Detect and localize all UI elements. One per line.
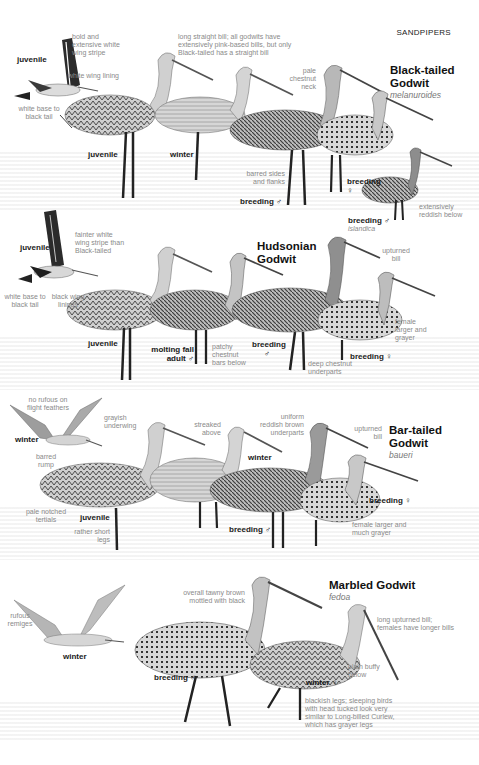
subspecies-name: melanuroides (390, 90, 455, 101)
note-tawny-brown: overall tawny brown mottled with black (175, 589, 245, 605)
note-blackish-legs: blackish legs; sleeping birds with head … (305, 697, 400, 729)
label-flight-winter: winter (63, 652, 87, 661)
label-molting-line2: adult ♂ (167, 354, 194, 363)
note-uniform-reddish: uniform reddish brown underparts (256, 413, 304, 437)
species-name-line2: Godwit (389, 437, 428, 449)
note-pale-tertials: pale notched tertials (24, 508, 68, 524)
note-female-much-grayer: female larger and much grayer (352, 521, 410, 537)
note-grayish-underwing: grayish underwing (104, 414, 140, 430)
label-molting-line1: molting fall (151, 345, 194, 354)
note-long-upturned-bill: long upturned bill; females have longer … (377, 616, 457, 632)
note-straight-bill: long straight bill; all godwits have ext… (178, 33, 300, 57)
note-short-legs: rather short legs (68, 528, 110, 544)
species-title-marbled: Marbled Godwit fedoa (329, 579, 415, 603)
note-tail-base: white base to black tail (0, 293, 50, 309)
label-breeding-male-line2: ♂ (264, 349, 270, 358)
species-title-hudsonian: Hudsonian Godwit (257, 240, 316, 266)
note-wing-lining: white wing lining (68, 72, 138, 80)
note-female-grayer: female larger and grayer (395, 318, 431, 342)
species-name-line1: Hudsonian (257, 240, 316, 252)
note-plain-buffy: plain buffy below (348, 663, 382, 679)
section-header: SANDPIPERS (396, 28, 451, 37)
note-no-rufous: no rufous on flight feathers (24, 396, 72, 412)
label-breeding-male-islandica: breeding ♂ (348, 216, 390, 225)
note-deep-chestnut: deep chestnut underparts (308, 360, 352, 376)
species-name-line1: Bar-tailed (389, 424, 442, 436)
species-name-line2: Godwit (390, 77, 429, 89)
label-juvenile: juvenile (88, 150, 118, 159)
label-flight-juvenile: juvenile (17, 55, 47, 64)
species-title-black-tailed: Black-tailed Godwit melanuroides (390, 64, 455, 101)
label-winter-female: winter ♀ (306, 678, 338, 687)
note-extensively-reddish: extensively reddish below (419, 203, 463, 219)
note-neck: pale chestnut neck (282, 67, 316, 91)
label-molting-adult: molting fall adult ♂ (144, 345, 194, 363)
label-breeding-female: breeding ♀ (369, 496, 411, 505)
label-flight-juvenile: juvenile (20, 243, 50, 252)
note-black-wing-linings: black wing linings (50, 293, 86, 309)
label-breeding-male: breeding ♂ (252, 340, 282, 358)
label-breeding-male-line1: breeding (252, 340, 286, 349)
species-title-bar-tailed: Bar-tailed Godwit baueri (389, 424, 442, 461)
note-patchy-chestnut: patchy chestnut bars below (212, 343, 254, 367)
species-name-line1: Marbled Godwit (329, 579, 415, 591)
label-winter: winter (248, 453, 272, 462)
label-breeding-female: breeding ♀ (347, 177, 381, 195)
label-flight-winter: winter (15, 435, 39, 444)
note-upturned-bill: upturned bill (381, 247, 411, 263)
note-barred-flanks: barred sides and flanks (245, 170, 285, 186)
note-upturned-bill: upturned bill (346, 425, 382, 441)
note-fainter-wing-stripe: fainter white wing stripe than Black-tai… (75, 231, 125, 255)
note-rufous-remiges: rufous remiges (5, 612, 35, 628)
label-breeding-female-line1: breeding (347, 177, 381, 186)
species-name-line1: Black-tailed (390, 64, 455, 76)
label-islandica: islandica (348, 225, 375, 233)
label-breeding-female: breeding ♀ (350, 352, 392, 361)
subspecies-name: baueri (389, 450, 442, 461)
label-juvenile: juvenile (88, 339, 118, 348)
species-name-line2: Godwit (257, 253, 296, 265)
bird-illustrations (0, 0, 479, 765)
label-breeding-male: breeding ♂ (154, 673, 196, 682)
label-breeding-female-line2: ♀ (347, 186, 353, 195)
note-tail-base: white base to black tail (10, 105, 68, 121)
note-barred-rump: barred rump (32, 453, 60, 469)
label-breeding-male: breeding ♂ (229, 525, 271, 534)
subspecies-name: fedoa (329, 592, 415, 603)
label-juvenile: juvenile (80, 513, 110, 522)
note-wing-stripe: bold and extensive white wing stripe (72, 33, 127, 57)
label-breeding-male: breeding ♂ (240, 197, 282, 206)
note-streaked-above: streaked above (187, 421, 221, 437)
label-winter: winter (170, 150, 194, 159)
